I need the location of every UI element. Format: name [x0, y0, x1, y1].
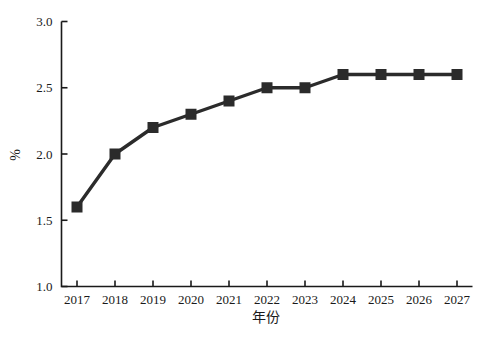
y-axis-tick-labels: 1.01.52.02.53.0: [36, 14, 52, 294]
x-tick-label: 2019: [140, 292, 166, 307]
x-tick-label: 2024: [330, 292, 357, 307]
y-tick-label: 1.0: [36, 279, 52, 294]
x-tick-label: 2021: [216, 292, 242, 307]
x-tick-label: 2025: [368, 292, 394, 307]
x-tick-label: 2027: [444, 292, 471, 307]
y-axis-ticks: [62, 22, 68, 287]
data-series: [72, 69, 463, 213]
y-tick-label: 1.5: [36, 213, 52, 228]
series-line: [77, 75, 457, 208]
x-tick-label: 2018: [102, 292, 128, 307]
series-marker: [110, 149, 121, 160]
x-tick-label: 2022: [254, 292, 280, 307]
y-axis-title: %: [8, 149, 23, 161]
series-marker: [148, 122, 159, 133]
x-tick-label: 2023: [292, 292, 318, 307]
series-marker: [376, 69, 387, 80]
series-marker: [262, 82, 273, 93]
series-marker: [72, 202, 83, 213]
chart-figure: 1.01.52.02.53.0 201720182019202020212022…: [0, 0, 481, 339]
axis-spines: [62, 22, 473, 287]
x-tick-label: 2020: [178, 292, 204, 307]
x-tick-label: 2026: [406, 292, 433, 307]
y-tick-label: 2.0: [36, 147, 52, 162]
y-tick-label: 2.5: [36, 80, 52, 95]
x-axis-tick-labels: 2017201820192020202120222023202420252026…: [64, 292, 471, 307]
x-axis-ticks: [77, 281, 457, 287]
x-tick-label: 2017: [64, 292, 91, 307]
series-marker: [414, 69, 425, 80]
series-marker: [300, 82, 311, 93]
series-marker: [224, 96, 235, 107]
series-marker: [186, 109, 197, 120]
y-tick-label: 3.0: [36, 14, 52, 29]
x-axis-title: 年份: [252, 310, 280, 325]
series-marker: [452, 69, 463, 80]
series-marker: [338, 69, 349, 80]
axes: [62, 22, 473, 287]
line-chart: 1.01.52.02.53.0 201720182019202020212022…: [0, 0, 481, 339]
